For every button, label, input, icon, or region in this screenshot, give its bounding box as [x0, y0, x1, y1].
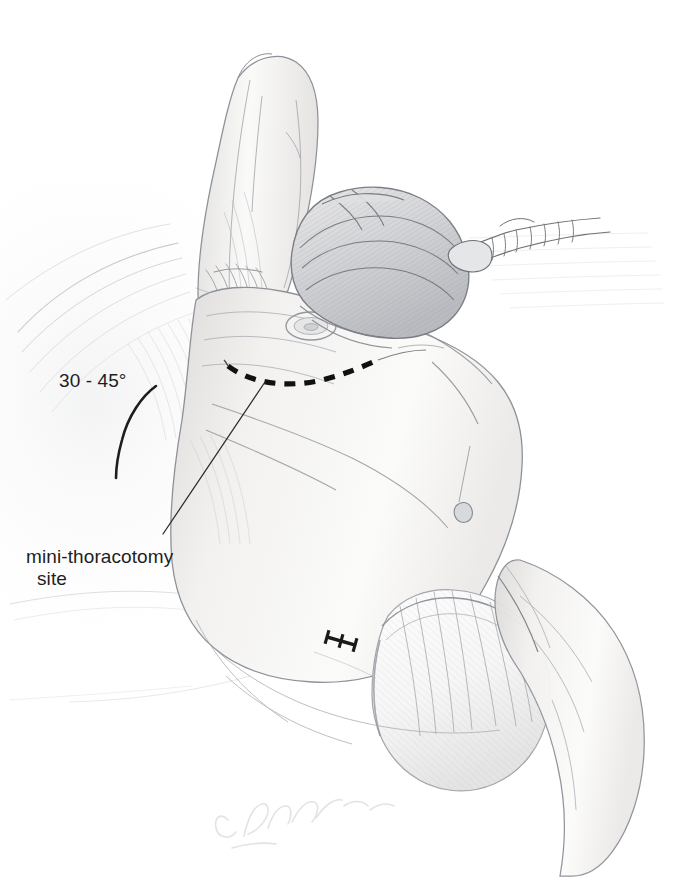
site-annotation-line-1: mini-thoracotomy	[26, 546, 173, 567]
site-annotation-label: mini-thoracotomysite	[26, 546, 173, 591]
surgical-illustration-figure: 30 - 45° mini-thoracotomysite	[0, 0, 673, 877]
angle-annotation-label: 30 - 45°	[59, 370, 127, 392]
illustration-canvas	[0, 0, 673, 877]
site-annotation-line-2: site	[26, 568, 173, 590]
